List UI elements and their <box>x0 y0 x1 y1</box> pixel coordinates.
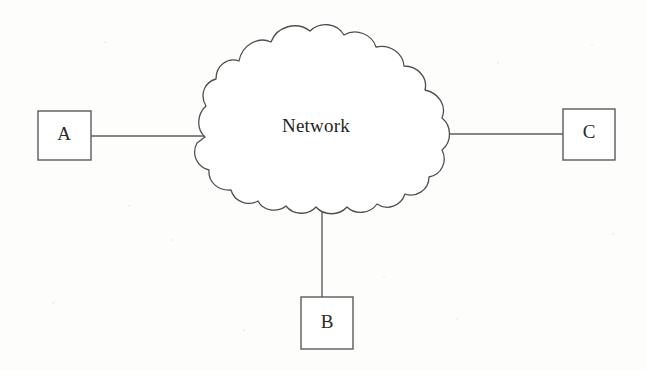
network-cloud: Network <box>195 25 450 214</box>
node-a-label: A <box>57 123 71 144</box>
node-c: C <box>563 109 615 160</box>
node-b: B <box>301 297 353 349</box>
network-diagram-canvas: Network A B C <box>0 0 647 371</box>
node-c-label: C <box>583 121 596 142</box>
cloud-label: Network <box>282 115 350 136</box>
node-b-label: B <box>321 311 334 332</box>
diagram-svg: Network A B C <box>0 0 647 371</box>
node-a: A <box>38 111 91 160</box>
